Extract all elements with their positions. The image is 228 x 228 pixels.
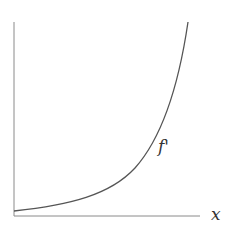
curve-label: f' <box>156 136 169 156</box>
chart-figure: f' x <box>0 0 228 228</box>
chart-svg: f' x <box>0 0 228 228</box>
f-prime-curve <box>14 22 188 211</box>
x-axis-label: x <box>211 204 221 224</box>
